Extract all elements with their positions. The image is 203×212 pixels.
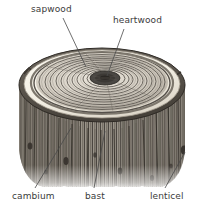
label-sapwood: sapwood: [31, 4, 72, 14]
trunk-illustration: [0, 0, 203, 212]
label-heartwood: heartwood: [113, 15, 162, 25]
heartwood-core: [90, 71, 120, 85]
label-cambium: cambium: [12, 191, 55, 201]
tree-trunk-diagram: sapwood heartwood cambium bast lenticel: [0, 0, 203, 212]
label-lenticel: lenticel: [150, 191, 184, 201]
label-bast: bast: [85, 191, 105, 201]
